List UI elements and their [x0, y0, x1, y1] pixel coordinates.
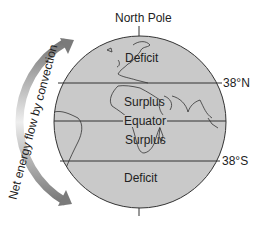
- south-surplus-label: Surplus: [125, 134, 166, 146]
- north-deficit-label: Deficit: [125, 52, 158, 64]
- latitude-38n-label: 38°N: [223, 77, 250, 89]
- equator-label: Equator: [123, 115, 167, 127]
- north-pole-label: North Pole: [115, 12, 172, 24]
- latitude-38s-label: 38°S: [222, 155, 248, 167]
- north-surplus-label: Surplus: [124, 96, 165, 108]
- south-deficit-label: Deficit: [124, 172, 157, 184]
